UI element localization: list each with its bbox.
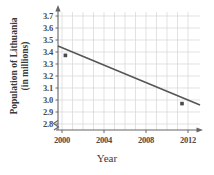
y-axis-title: Population of Lithuania (in millions) — [9, 0, 31, 141]
y-tick-label-2-9: 2.9 — [31, 107, 53, 117]
x-tick-label-2000: 2000 — [48, 135, 76, 145]
y-tick-label-3-1: 3.1 — [31, 83, 53, 93]
y-axis — [55, 5, 60, 130]
y-tick-label-3-5: 3.5 — [31, 35, 53, 45]
horizontal-gridlines — [58, 16, 200, 124]
y-tick-label-3-3: 3.3 — [31, 59, 53, 69]
x-tick-label-2008: 2008 — [132, 135, 160, 145]
x-axis-title: Year — [0, 152, 214, 164]
y-axis-title-line2: (in millions) — [20, 0, 31, 141]
y-tick-label-3-4: 3.4 — [31, 47, 53, 57]
y-tick-label-2-8: 2.8 — [31, 119, 53, 129]
x-axis — [56, 127, 203, 133]
data-point-markers — [64, 54, 184, 106]
y-tick-label-3-0: 3.0 — [31, 95, 53, 105]
y-tick-label-3-2: 3.2 — [31, 71, 53, 81]
trend-line — [58, 46, 200, 105]
y-tick-label-3-7: 3.7 — [31, 11, 53, 21]
y-axis-title-line1: Population of Lithuania — [9, 0, 20, 141]
x-tick-label-2012: 2012 — [174, 135, 202, 145]
y-tick-label-3-6: 3.6 — [31, 23, 53, 33]
population-line-chart: 3.7 3.6 3.5 3.4 3.3 3.2 3.1 3.0 2.9 2.8 … — [0, 0, 214, 175]
x-tick-label-2004: 2004 — [90, 135, 118, 145]
